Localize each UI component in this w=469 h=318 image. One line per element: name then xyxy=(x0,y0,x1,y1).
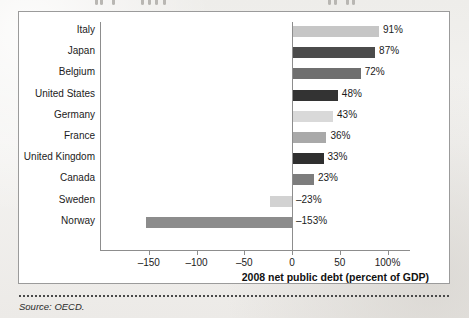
bar-value-label: 43% xyxy=(337,109,357,120)
bar-value-label: 87% xyxy=(379,45,399,56)
category-label: France xyxy=(19,130,95,141)
category-label: Italy xyxy=(19,24,95,35)
category-label: Canada xyxy=(19,172,95,183)
bar xyxy=(292,90,338,101)
axis-tick-label: –150 xyxy=(138,257,160,268)
axis-tick-label: –50 xyxy=(236,257,253,268)
bar xyxy=(292,68,361,79)
bar-value-label: 48% xyxy=(342,88,362,99)
category-label: Norway xyxy=(19,215,95,226)
bar xyxy=(292,132,326,143)
text-descender-fragment xyxy=(163,0,166,5)
category-label: United Kingdom xyxy=(19,151,95,162)
text-descender-fragment xyxy=(155,0,158,5)
axis-tick-label: 50 xyxy=(334,257,345,268)
bar xyxy=(292,111,333,122)
bar xyxy=(292,153,324,164)
bar-value-label: 72% xyxy=(365,66,385,77)
text-descender-fragment xyxy=(346,0,349,5)
bar-value-label: 36% xyxy=(330,130,350,141)
bar xyxy=(146,217,292,228)
bar-value-label: –23% xyxy=(296,194,322,205)
text-descender-fragment xyxy=(352,0,355,5)
category-label: Belgium xyxy=(19,66,95,77)
category-label: Japan xyxy=(19,45,95,56)
category-label: Germany xyxy=(19,109,95,120)
axis-tick-label: –100 xyxy=(185,257,207,268)
bar xyxy=(292,26,379,37)
source-note: Source: OECD. xyxy=(19,301,84,312)
bar xyxy=(270,196,292,207)
text-descender-fragment xyxy=(95,0,98,5)
x-axis-title: 2008 net public debt (percent of GDP) xyxy=(129,271,429,283)
category-axis-line xyxy=(100,22,101,250)
bar xyxy=(292,174,314,185)
bar-value-label: –153% xyxy=(296,215,327,226)
text-descender-fragment xyxy=(334,0,337,5)
bar xyxy=(292,47,375,58)
text-descender-fragment xyxy=(141,0,144,5)
category-label: Sweden xyxy=(19,194,95,205)
bar-value-label: 33% xyxy=(328,151,348,162)
axis-tick-label: 0 xyxy=(289,257,295,268)
axis-tick xyxy=(340,250,341,255)
zero-axis-line xyxy=(292,22,293,250)
axis-tick xyxy=(197,250,198,255)
axis-tick xyxy=(149,250,150,255)
chart-plot-area: ItalyJapanBelgiumUnited StatesGermanyFra… xyxy=(19,12,449,283)
bar-value-label: 91% xyxy=(383,24,403,35)
value-axis-line xyxy=(100,250,410,251)
figure-frame: ItalyJapanBelgiumUnited StatesGermanyFra… xyxy=(18,11,450,284)
axis-tick xyxy=(292,250,293,255)
text-descender-fragment xyxy=(328,0,331,5)
text-descender-fragment xyxy=(100,0,103,5)
axis-tick xyxy=(244,250,245,255)
dotted-separator-rule xyxy=(18,295,450,297)
axis-tick xyxy=(388,250,389,255)
text-descender-fragment xyxy=(112,0,115,5)
axis-tick-label: 100% xyxy=(375,257,401,268)
text-descender-fragment xyxy=(148,0,151,5)
bar-value-label: 23% xyxy=(318,172,338,183)
cut-off-text-strip xyxy=(0,0,469,10)
category-label: United States xyxy=(19,88,95,99)
